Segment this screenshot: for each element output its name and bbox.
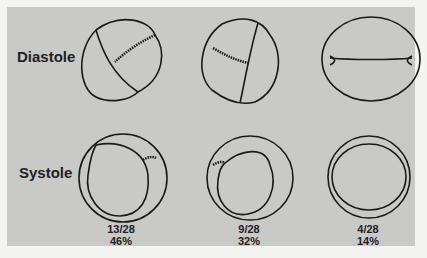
percent: 32%	[219, 235, 279, 247]
diastole-valve-1	[82, 20, 162, 101]
diastole-valve-2	[202, 19, 279, 103]
fraction: 13/28	[91, 223, 151, 235]
fraction: 9/28	[219, 223, 279, 235]
percent: 46%	[91, 235, 151, 247]
valve-drawings	[0, 0, 427, 258]
fraction: 4/28	[338, 223, 398, 235]
systole-valve-2	[207, 136, 293, 220]
percent: 14%	[338, 235, 398, 247]
diastole-valve-3	[322, 17, 420, 101]
caption-col2: 9/28 32%	[219, 223, 279, 247]
systole-valve-3	[328, 136, 410, 218]
caption-col3: 4/28 14%	[338, 223, 398, 247]
systole-valve-1	[79, 134, 167, 222]
caption-col1: 13/28 46%	[91, 223, 151, 247]
